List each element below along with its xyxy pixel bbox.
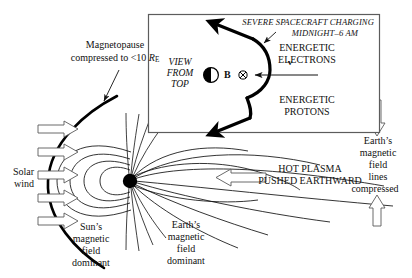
energetic-protons-line2: PROTONS xyxy=(252,107,362,118)
earths-field-line1: Earth’s xyxy=(148,220,224,231)
solar-wind-arrow xyxy=(38,121,78,137)
earths-field-line3: field xyxy=(148,244,224,255)
earths-field-line2: magnetic xyxy=(148,232,224,243)
inset-subheading: MIDNIGHT–6 AM xyxy=(216,29,358,38)
suns-field-line2: magnetic xyxy=(52,234,130,245)
inset-heading: SEVERE SPACECRAFT CHARGING xyxy=(206,18,374,27)
view-from-top-line3: TOP xyxy=(158,79,202,89)
energetic-electrons-line2: ELECTRONS xyxy=(252,55,362,66)
earth-radii-subscript: E xyxy=(155,56,159,64)
magnetopause-label-line2: compressed to <10 RE xyxy=(50,53,180,65)
energetic-electrons-line1: ENERGETIC xyxy=(252,43,362,54)
compressed-line4: lines xyxy=(345,172,411,183)
solar-wind-label-line2: wind xyxy=(0,179,34,190)
compressed-line5: compressed xyxy=(339,184,411,195)
magnetosphere-figure: SEVERE SPACECRAFT CHARGING MIDNIGHT–6 AM… xyxy=(0,0,412,278)
earth-body xyxy=(123,174,137,188)
suns-field-line1: Sun’s xyxy=(52,222,130,233)
suns-field-line4: dominant xyxy=(52,258,130,269)
magnetic-field-symbol-label: B xyxy=(224,70,231,81)
solar-wind-label-line1: Solar xyxy=(0,167,34,178)
energetic-protons-line1: ENERGETIC xyxy=(252,95,362,106)
earth-top-view xyxy=(204,68,219,83)
compressed-line2: magnetic xyxy=(345,148,411,159)
magnetopause-label-line1: Magnetopause xyxy=(50,40,180,51)
magnetopause-label-text: compressed to <10 xyxy=(71,52,149,63)
suns-field-line3: field xyxy=(52,246,130,257)
solar-wind-arrows xyxy=(38,121,78,229)
view-from-top-line2: FROM xyxy=(158,68,202,78)
earths-field-line4: dominant xyxy=(148,256,224,267)
compressed-line3: field xyxy=(345,160,411,171)
compressed-line1: Earth’s xyxy=(345,136,411,147)
compression-arrow-up xyxy=(369,195,385,226)
